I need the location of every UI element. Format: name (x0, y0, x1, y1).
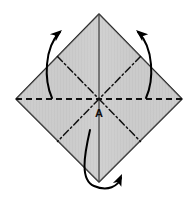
arrowhead-upper-right-icon (133, 26, 148, 41)
origami-diagram: A (0, 0, 196, 211)
arrowhead-upper-left-icon (50, 26, 65, 41)
labels-group: A (95, 107, 103, 119)
diagram-canvas: A (0, 0, 196, 211)
point-a-label: A (95, 107, 103, 119)
